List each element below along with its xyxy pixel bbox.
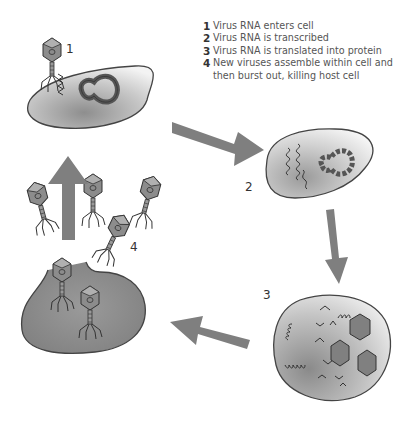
step-label-1: 1 [66, 42, 74, 56]
legend-item-3: 3Virus RNA is translated into protein [203, 45, 413, 57]
arrow-step1-to-2 [172, 122, 264, 166]
step-label-3: 3 [263, 288, 271, 302]
cell-step-2 [266, 129, 373, 198]
phage-free-icon [24, 179, 60, 237]
legend-item-2: 2Virus RNA is transcribed [203, 32, 413, 44]
step-label-2: 2 [245, 180, 253, 194]
arrow-step2-to-3 [325, 209, 348, 284]
cell-step-3 [274, 295, 391, 400]
arrow-step4-to-1 [48, 156, 88, 240]
phage-free-icon [129, 174, 165, 232]
legend-item-1: 1Virus RNA enters cell [203, 20, 413, 32]
cell-step-4 [22, 262, 146, 353]
arrow-step3-to-4 [170, 316, 250, 349]
legend-item-4: 4New viruses assemble within cell and th… [203, 57, 413, 82]
step-label-4: 4 [130, 240, 138, 254]
cell-step-1 [28, 66, 154, 128]
legend: 1Virus RNA enters cell 2Virus RNA is tra… [203, 20, 413, 82]
